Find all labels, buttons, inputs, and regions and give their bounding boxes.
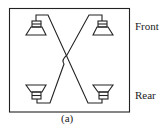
speaker-wiring-diagram [0,0,166,126]
speaker-front-left-icon [26,21,46,35]
front-label: Front [135,21,159,32]
speaker-front-right-icon [93,21,113,35]
wire-front-left-to-rear-right [36,15,102,103]
rear-label: Rear [135,90,156,101]
speaker-rear-right-icon [93,85,113,99]
speaker-rear-left-icon [26,85,46,99]
enclosure-box [10,9,130,113]
figure-caption: (a) [61,113,73,124]
wire-front-right-to-rear-left [37,15,102,103]
